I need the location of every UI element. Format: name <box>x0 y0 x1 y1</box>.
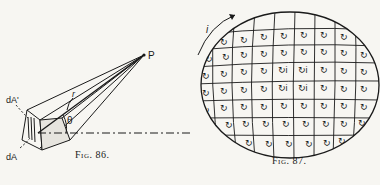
svg-text:↻: ↻ <box>260 102 268 112</box>
svg-text:↻: ↻ <box>300 101 308 111</box>
svg-text:↻: ↻ <box>320 83 328 93</box>
svg-text:↻: ↻ <box>358 118 366 128</box>
label-dA: dA <box>6 152 17 162</box>
svg-text:↻: ↻ <box>322 119 330 129</box>
svg-text:↻: ↻ <box>225 138 233 148</box>
svg-text:↻: ↻ <box>323 138 331 148</box>
svg-text:↻: ↻ <box>260 32 268 42</box>
svg-text:↻: ↻ <box>285 139 293 149</box>
svg-text:↻: ↻ <box>280 48 288 58</box>
svg-text:↻: ↻ <box>240 67 248 77</box>
svg-text:↻: ↻ <box>360 84 368 94</box>
svg-text:↻: ↻ <box>340 48 348 58</box>
svg-text:↻: ↻ <box>320 101 328 111</box>
svg-text:↻: ↻ <box>242 119 250 129</box>
svg-text:↻: ↻ <box>360 102 368 112</box>
svg-text:↻: ↻ <box>260 49 268 59</box>
label-p: P <box>148 50 155 61</box>
svg-text:↻: ↻ <box>220 69 228 79</box>
svg-text:↻: ↻ <box>222 52 230 62</box>
svg-text:↻: ↻ <box>302 119 310 129</box>
svg-text:↻: ↻ <box>260 66 268 76</box>
svg-text:↻: ↻ <box>202 88 210 98</box>
figure-86: P r θ dA' dA Fig. 86. <box>0 0 190 185</box>
svg-text:↻: ↻ <box>320 65 328 75</box>
svg-text:↻: ↻ <box>320 30 328 40</box>
svg-text:↻: ↻ <box>245 138 253 148</box>
svg-text:↻: ↻ <box>340 66 348 76</box>
caption-fig-86: Fig. 86. <box>75 149 109 160</box>
svg-text:↻i: ↻i <box>298 83 308 93</box>
svg-text:↻: ↻ <box>360 50 368 60</box>
caption-fig-87: Fig. 87. <box>272 155 306 166</box>
svg-text:↻: ↻ <box>225 120 233 130</box>
svg-text:↻: ↻ <box>240 85 248 95</box>
svg-text:↻: ↻ <box>240 35 248 45</box>
svg-text:↻: ↻ <box>340 119 348 129</box>
svg-text:↻: ↻ <box>240 50 248 60</box>
svg-text:↻: ↻ <box>202 71 210 81</box>
svg-text:↻: ↻ <box>340 32 348 42</box>
svg-text:↻: ↻ <box>240 102 248 112</box>
svg-text:↻: ↻ <box>305 139 313 149</box>
svg-text:↻: ↻ <box>262 119 270 129</box>
svg-text:↻: ↻ <box>265 139 273 149</box>
svg-text:↻i: ↻i <box>278 65 288 75</box>
svg-text:↻: ↻ <box>320 47 328 57</box>
svg-text:↻: ↻ <box>220 103 228 113</box>
label-dA-prime: dA' <box>6 95 19 105</box>
figure-87: i ↻↻↻↻↻↻↻ ↻↻↻↻↻↻↻↻↻ ↻↻↻↻↻i↻i↻↻↻ ↻↻↻↻↻i↻i… <box>190 0 380 185</box>
svg-text:↻: ↻ <box>300 30 308 40</box>
svg-text:↻: ↻ <box>280 101 288 111</box>
label-current-i: i <box>206 24 209 35</box>
svg-text:↻: ↻ <box>300 47 308 57</box>
label-theta: θ <box>67 115 73 126</box>
svg-text:↻: ↻ <box>340 101 348 111</box>
svg-text:↻i: ↻i <box>278 83 288 93</box>
svg-text:↻: ↻ <box>220 86 228 96</box>
svg-text:↻: ↻ <box>340 84 348 94</box>
svg-text:↻: ↻ <box>260 84 268 94</box>
svg-text:↻i: ↻i <box>298 65 308 75</box>
svg-text:↻: ↻ <box>280 31 288 41</box>
svg-text:↻: ↻ <box>282 119 290 129</box>
svg-text:↻: ↻ <box>360 67 368 77</box>
